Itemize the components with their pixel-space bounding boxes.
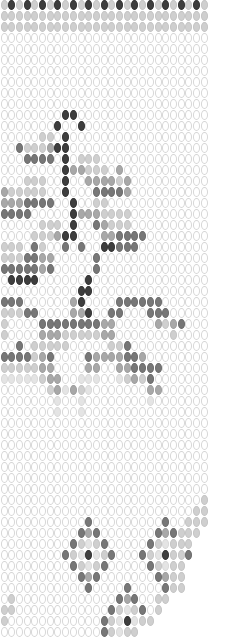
bead xyxy=(8,308,15,318)
bead xyxy=(170,440,177,450)
bead xyxy=(162,242,169,252)
bead xyxy=(193,209,200,219)
bead xyxy=(101,473,108,483)
bead xyxy=(131,99,138,109)
bead xyxy=(78,253,85,263)
bead xyxy=(162,187,169,197)
bead xyxy=(39,88,46,98)
bead xyxy=(78,99,85,109)
bead xyxy=(70,594,77,604)
bead xyxy=(108,363,115,373)
bead xyxy=(201,121,208,131)
bead xyxy=(31,363,38,373)
bead xyxy=(139,429,146,439)
bead xyxy=(93,352,100,362)
bead xyxy=(131,451,138,461)
bead xyxy=(131,550,138,560)
bead xyxy=(124,451,131,461)
bead xyxy=(124,22,131,32)
bead xyxy=(178,418,185,428)
bead xyxy=(101,330,108,340)
bead xyxy=(193,396,200,406)
bead xyxy=(131,627,138,637)
bead xyxy=(24,605,31,615)
bead xyxy=(108,418,115,428)
bead xyxy=(70,231,77,241)
bead xyxy=(108,308,115,318)
bead xyxy=(101,583,108,593)
bead xyxy=(70,583,77,593)
bead xyxy=(93,176,100,186)
bead xyxy=(108,429,115,439)
bead xyxy=(116,330,123,340)
bead xyxy=(116,253,123,263)
bead xyxy=(39,66,46,76)
bead xyxy=(131,484,138,494)
bead xyxy=(8,462,15,472)
bead xyxy=(54,264,61,274)
bead xyxy=(47,264,54,274)
bead xyxy=(93,220,100,230)
bead xyxy=(85,253,92,263)
bead xyxy=(201,220,208,230)
bead xyxy=(93,407,100,417)
bead xyxy=(78,605,85,615)
bead xyxy=(85,110,92,120)
bead xyxy=(131,319,138,329)
bead xyxy=(101,605,108,615)
bead xyxy=(101,198,108,208)
bead xyxy=(108,495,115,505)
bead xyxy=(178,165,185,175)
bead xyxy=(1,341,8,351)
bead xyxy=(62,473,69,483)
bead xyxy=(116,341,123,351)
bead xyxy=(70,275,77,285)
bead xyxy=(147,605,154,615)
bead xyxy=(155,517,162,527)
bead xyxy=(16,561,23,571)
bead xyxy=(124,308,131,318)
bead xyxy=(39,176,46,186)
bead xyxy=(178,396,185,406)
bead xyxy=(185,22,192,32)
bead xyxy=(93,627,100,637)
bead xyxy=(131,132,138,142)
bead xyxy=(131,462,138,472)
bead xyxy=(193,506,200,516)
bead xyxy=(85,363,92,373)
bead xyxy=(170,451,177,461)
bead xyxy=(93,341,100,351)
bead xyxy=(185,550,192,560)
bead xyxy=(155,121,162,131)
bead xyxy=(193,429,200,439)
bead xyxy=(78,11,85,21)
bead xyxy=(170,495,177,505)
bead xyxy=(108,154,115,164)
bead xyxy=(108,132,115,142)
bead xyxy=(31,396,38,406)
bead xyxy=(39,253,46,263)
bead xyxy=(147,88,154,98)
bead xyxy=(147,176,154,186)
bead xyxy=(116,209,123,219)
bead xyxy=(116,506,123,516)
bead xyxy=(24,550,31,560)
bead xyxy=(170,528,177,538)
bead xyxy=(124,495,131,505)
bead xyxy=(70,429,77,439)
bead xyxy=(193,99,200,109)
bead xyxy=(201,242,208,252)
bead xyxy=(85,297,92,307)
bead xyxy=(108,583,115,593)
bead xyxy=(31,572,38,582)
bead xyxy=(78,275,85,285)
bead xyxy=(62,110,69,120)
bead xyxy=(139,22,146,32)
bead xyxy=(54,275,61,285)
bead xyxy=(8,121,15,131)
bead xyxy=(108,11,115,21)
bead xyxy=(54,198,61,208)
bead xyxy=(108,616,115,626)
bead xyxy=(139,418,146,428)
bead xyxy=(70,44,77,54)
